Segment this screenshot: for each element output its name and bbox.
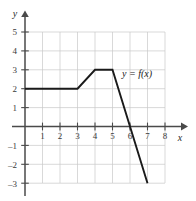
- x-tick-label-8: 8: [163, 131, 168, 141]
- y-tick-label-5: 5: [13, 27, 18, 37]
- y-tick-label-neg3: –3: [7, 179, 18, 189]
- y-axis: [21, 11, 29, 197]
- function-graph-figure: 1 2 3 4 5 6 7 8 5 4 3 2 1 –1 –2 –3 x y y…: [0, 0, 196, 201]
- x-tick-label-5: 5: [110, 131, 115, 141]
- y-tick-label-neg1: –1: [7, 141, 17, 151]
- x-tick-label-7: 7: [145, 131, 150, 141]
- y-tick-label-neg2: –2: [7, 160, 17, 170]
- y-tick-label-4: 4: [13, 46, 18, 56]
- y-axis-label: y: [12, 8, 18, 19]
- y-tick-labels: 5 4 3 2 1 –1 –2 –3: [7, 27, 18, 188]
- x-axis-label: x: [177, 132, 183, 143]
- x-axis-arrowhead: [181, 123, 188, 131]
- y-tick-label-3: 3: [13, 65, 18, 75]
- y-tick-label-1: 1: [13, 103, 18, 113]
- x-tick-label-1: 1: [40, 131, 45, 141]
- x-axis: [12, 123, 188, 131]
- x-tick-label-3: 3: [75, 131, 80, 141]
- plot-area: 1 2 3 4 5 6 7 8 5 4 3 2 1 –1 –2 –3 x y y…: [0, 0, 196, 201]
- x-tick-label-4: 4: [93, 131, 98, 141]
- y-axis-arrowhead: [21, 11, 29, 18]
- x-tick-labels: 1 2 3 4 5 6 7 8: [40, 131, 168, 141]
- y-tick-label-2: 2: [13, 84, 18, 94]
- curve-annotation-label: y = f(x): [121, 68, 153, 80]
- x-tick-label-2: 2: [58, 131, 63, 141]
